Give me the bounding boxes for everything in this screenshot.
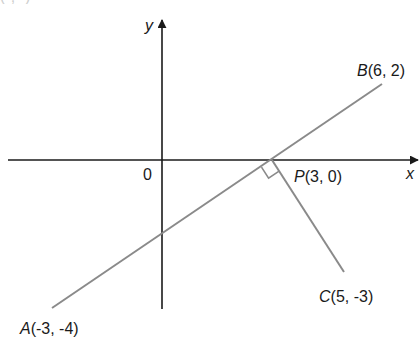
point-c-coords: (5, -3)	[331, 288, 374, 305]
point-p-label: P(3, 0)	[294, 168, 342, 185]
point-p-coords: (3, 0)	[305, 168, 342, 185]
x-axis-label: x	[405, 165, 415, 182]
point-b-coords: (6, 2)	[368, 62, 405, 79]
segment-ab	[52, 84, 382, 308]
point-a-label: A(-3, -4)	[19, 320, 79, 337]
point-p-name: P	[294, 168, 305, 185]
point-b-label: B(6, 2)	[357, 62, 405, 79]
y-axis-label: y	[144, 17, 154, 34]
point-a-coords: (-3, -4)	[31, 320, 79, 337]
coordinate-diagram: y x 0 B(6, 2) P(3, 0) C(5, -3) A(-3, -4)	[0, 0, 420, 349]
point-a-name: A	[19, 320, 31, 337]
point-b-name: B	[357, 62, 368, 79]
point-c-name: C	[319, 288, 331, 305]
origin-label: 0	[143, 166, 152, 183]
point-c-label: C(5, -3)	[319, 288, 373, 305]
